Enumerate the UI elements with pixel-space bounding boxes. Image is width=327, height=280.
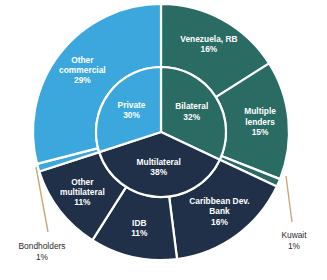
sunburst-svg: Venezuela, RB16%Multiplelenders15%Caribb…	[0, 0, 327, 280]
leader-line-kuwait	[286, 176, 292, 222]
outer-label-idb: IDB11%	[131, 218, 148, 238]
callout-label-bondholders: Bondholders1%	[18, 241, 65, 262]
callout-label-kuwait: Kuwait1%	[281, 230, 307, 251]
sunburst-chart: Venezuela, RB16%Multiplelenders15%Caribb…	[0, 0, 327, 280]
